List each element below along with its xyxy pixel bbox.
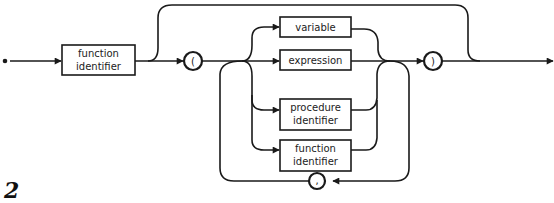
branch-procedure bbox=[242, 61, 279, 110]
comma-symbol: , bbox=[315, 175, 318, 186]
variable-label: variable bbox=[295, 22, 335, 33]
branch-function bbox=[252, 95, 279, 150]
open-paren-symbol: ( bbox=[191, 56, 195, 67]
procedure-label-line1: procedure bbox=[290, 102, 341, 113]
box-label-line1: function bbox=[78, 48, 119, 59]
variable-box: variable bbox=[280, 17, 351, 37]
function-identifier-alt-box: function identifier bbox=[280, 140, 351, 171]
function-alt-label-line2: identifier bbox=[293, 156, 339, 167]
close-paren-node: ) bbox=[424, 52, 442, 70]
start-dot bbox=[3, 59, 8, 64]
function-identifier-box: function identifier bbox=[62, 45, 135, 75]
branch-variable bbox=[242, 27, 279, 61]
expression-box: expression bbox=[280, 50, 351, 70]
syntax-diagram: function identifier ( variable expressio… bbox=[0, 0, 554, 203]
close-paren-symbol: ) bbox=[431, 56, 435, 67]
function-alt-label-line1: function bbox=[295, 143, 336, 154]
box-label-line2: identifier bbox=[76, 61, 122, 72]
merge-variable bbox=[351, 29, 390, 61]
comma-node: , bbox=[309, 173, 325, 189]
procedure-label-line2: identifier bbox=[293, 115, 339, 126]
expression-label: expression bbox=[289, 55, 343, 66]
open-paren-node: ( bbox=[184, 52, 202, 70]
figure-number: 2 bbox=[3, 177, 19, 203]
merge-procedure bbox=[351, 61, 390, 110]
procedure-identifier-box: procedure identifier bbox=[280, 99, 351, 130]
